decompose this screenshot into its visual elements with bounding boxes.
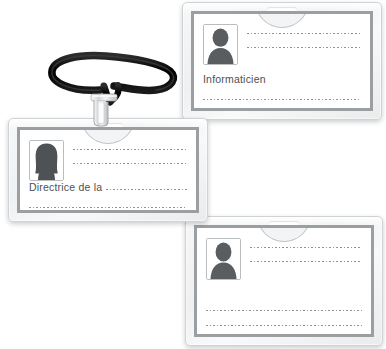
- person-silhouette-icon: [203, 24, 238, 65]
- job-title-label: Directrice de la: [29, 181, 102, 193]
- dotted-line: [106, 189, 187, 190]
- badge-bottom[interactable]: [185, 216, 383, 346]
- id-card-bottom: [194, 225, 374, 337]
- card-text-line: Informaticien: [203, 73, 361, 85]
- dotted-line: [250, 247, 362, 248]
- dotted-line: [247, 33, 361, 34]
- dotted-line: [203, 99, 361, 100]
- id-card-middle: Directrice de la: [17, 127, 199, 213]
- dotted-line: [206, 310, 362, 311]
- dotted-line: [247, 47, 361, 48]
- dotted-line: [73, 149, 187, 150]
- person-silhouette-icon: [206, 238, 241, 280]
- dotted-line: [29, 207, 187, 208]
- job-title-label: Informaticien: [203, 73, 266, 85]
- dotted-line: [250, 261, 362, 262]
- dotted-line: [73, 163, 187, 164]
- card-text-line: Directrice de la: [29, 181, 187, 193]
- id-card-top: Informaticien: [191, 11, 373, 111]
- badge-scene: Informaticien: [0, 0, 386, 349]
- badge-top[interactable]: Informaticien: [182, 2, 382, 120]
- badge-middle[interactable]: Directrice de la: [8, 118, 208, 222]
- person-silhouette-icon: [29, 140, 64, 181]
- dotted-line: [206, 325, 362, 326]
